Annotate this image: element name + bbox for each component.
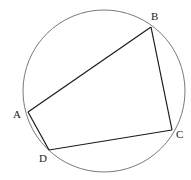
vertex-label-c: C [176,128,183,140]
cyclic-quadrilateral-diagram: ABCD [0,0,191,180]
vertex-labels: ABCD [13,10,183,164]
edge-da [28,112,49,150]
edge-ab [28,27,151,112]
vertex-label-b: B [151,10,158,22]
edge-cd [49,130,172,150]
vertex-label-a: A [13,108,21,120]
vertex-label-d: D [39,152,47,164]
quadrilateral-edges [28,27,172,150]
